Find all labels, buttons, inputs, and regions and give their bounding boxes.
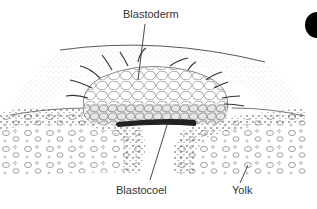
blastula-diagram [0, 0, 317, 209]
label-blastoderm: Blastoderm [123, 8, 179, 20]
label-yolk: Yolk [232, 184, 252, 196]
blastocoel-leader [150, 122, 168, 180]
corner-marker [305, 12, 317, 38]
label-blastocoel: Blastocoel [116, 184, 167, 196]
